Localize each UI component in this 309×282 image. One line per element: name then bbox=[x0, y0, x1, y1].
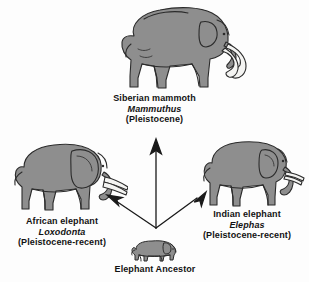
indian-elephant-label: Indian elephant Elephas (Pleistocene-rec… bbox=[184, 209, 309, 241]
elephant-ancestor-icon bbox=[128, 238, 182, 265]
arrow-up-icon bbox=[151, 139, 162, 228]
african-elephant-icon bbox=[8, 139, 128, 217]
mammoth-epoch: (Pleistocene) bbox=[62, 114, 247, 125]
mammoth-genus: Mammuthus bbox=[62, 104, 247, 115]
african-common-name: African elephant bbox=[0, 216, 126, 227]
ancestor-common-name: Elephant Ancestor bbox=[79, 264, 231, 275]
african-epoch: (Pleistocene-recent) bbox=[0, 237, 126, 248]
elephant-ancestor-label: Elephant Ancestor bbox=[79, 264, 231, 275]
mammoth-icon bbox=[104, 2, 250, 94]
elephant-evolution-diagram: Siberian mammoth Mammuthus (Pleistocene) bbox=[0, 0, 309, 282]
mammoth-common-name: Siberian mammoth bbox=[62, 93, 247, 104]
african-genus: Loxodonta bbox=[0, 227, 126, 238]
indian-elephant-icon bbox=[198, 137, 309, 213]
african-elephant-label: African elephant Loxodonta (Pleistocene-… bbox=[0, 216, 126, 248]
indian-common-name: Indian elephant bbox=[184, 209, 309, 220]
indian-epoch: (Pleistocene-recent) bbox=[184, 230, 309, 241]
indian-genus: Elephas bbox=[184, 220, 309, 231]
mammoth-label: Siberian mammoth Mammuthus (Pleistocene) bbox=[62, 93, 247, 125]
